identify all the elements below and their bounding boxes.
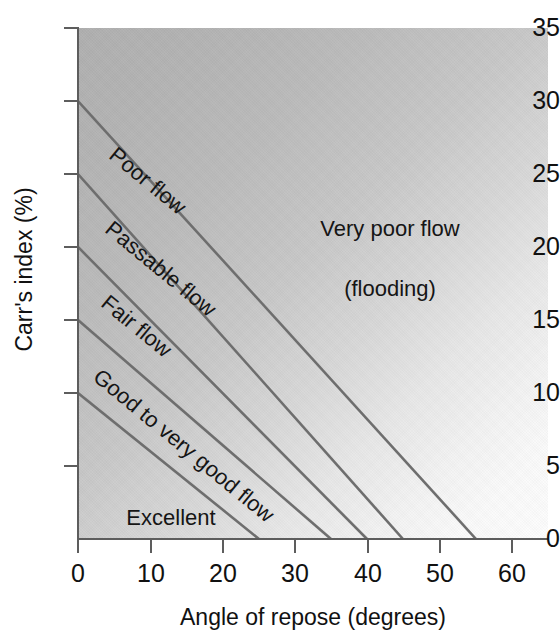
line-good-flow bbox=[78, 320, 331, 539]
y-tick-35 bbox=[64, 27, 78, 29]
line-passable-flow bbox=[78, 174, 403, 539]
boundary-lines bbox=[78, 28, 548, 539]
x-tick-label-40: 40 bbox=[338, 561, 398, 586]
y-tick-label-35: 35 bbox=[502, 15, 560, 40]
y-tick-20 bbox=[64, 246, 78, 248]
y-tick-label-30: 30 bbox=[502, 88, 560, 113]
x-tick-40 bbox=[367, 540, 369, 553]
y-tick-15 bbox=[64, 319, 78, 321]
x-tick-label-20: 20 bbox=[193, 561, 253, 586]
line-excellent-flow bbox=[78, 393, 259, 539]
x-tick-30 bbox=[294, 540, 296, 553]
x-tick-20 bbox=[222, 540, 224, 553]
y-axis-title: Carr's index (%) bbox=[13, 150, 36, 390]
y-tick-30 bbox=[64, 100, 78, 102]
x-tick-50 bbox=[439, 540, 441, 553]
y-tick-label-20: 20 bbox=[502, 234, 560, 259]
x-axis-line bbox=[77, 538, 548, 540]
x-tick-label-0: 0 bbox=[48, 561, 108, 586]
x-tick-label-60: 60 bbox=[482, 561, 542, 586]
x-tick-60 bbox=[511, 540, 513, 553]
y-tick-25 bbox=[64, 173, 78, 175]
line-poor-flow bbox=[78, 101, 476, 539]
y-tick-10 bbox=[64, 392, 78, 394]
x-tick-10 bbox=[150, 540, 152, 553]
y-tick-label-10: 10 bbox=[502, 380, 560, 405]
y-tick-5 bbox=[64, 465, 78, 467]
x-axis-title: Angle of repose (degrees) bbox=[78, 606, 548, 629]
y-tick-label-25: 25 bbox=[502, 161, 560, 186]
plot-area: Very poor flow (flooding) Poor flow Pass… bbox=[78, 28, 548, 539]
x-tick-label-30: 30 bbox=[265, 561, 325, 586]
y-tick-label-15: 15 bbox=[502, 307, 560, 332]
y-axis-line bbox=[77, 27, 79, 540]
y-tick-label-5: 5 bbox=[502, 453, 560, 478]
x-tick-0 bbox=[77, 540, 79, 553]
line-fair-flow bbox=[78, 247, 367, 539]
chart-figure: Very poor flow (flooding) Poor flow Pass… bbox=[0, 0, 560, 641]
x-tick-label-50: 50 bbox=[410, 561, 470, 586]
x-tick-label-10: 10 bbox=[121, 561, 181, 586]
